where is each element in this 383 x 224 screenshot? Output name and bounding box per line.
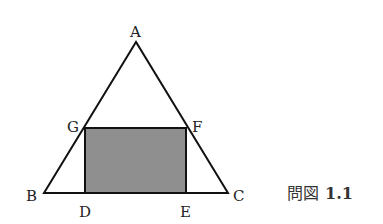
label-F: F <box>192 118 202 136</box>
label-C: C <box>233 187 244 205</box>
label-B: B <box>26 187 37 205</box>
caption-prefix: 問図 <box>287 184 319 203</box>
shaded-rectangle-DEFG <box>85 128 186 193</box>
caption-number: 1.1 <box>325 184 353 203</box>
figure-caption: 問図1.1 <box>287 180 353 204</box>
label-A: A <box>129 23 141 41</box>
label-E: E <box>180 203 191 221</box>
label-G: G <box>67 118 79 136</box>
label-D: D <box>79 203 91 221</box>
